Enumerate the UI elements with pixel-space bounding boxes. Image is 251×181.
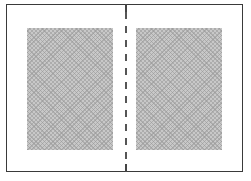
divider-bottom-tick bbox=[125, 164, 127, 172]
divider-top-tick bbox=[125, 4, 127, 12]
right-page-panel bbox=[136, 28, 222, 150]
left-page-panel bbox=[27, 28, 113, 150]
divider-dashed-line bbox=[125, 12, 127, 164]
